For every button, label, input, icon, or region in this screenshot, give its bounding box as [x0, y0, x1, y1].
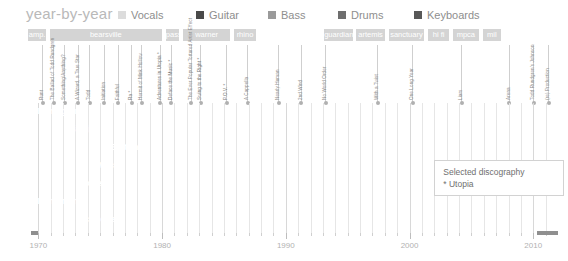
member-name-label: Siegler	[66, 121, 105, 138]
axis-tick	[410, 233, 411, 239]
axis-tick	[533, 233, 534, 239]
legend-label: Vocals	[131, 9, 163, 21]
axis-tick-label: 1980	[153, 241, 171, 250]
axis-tick	[311, 233, 312, 236]
axis-tick	[125, 233, 126, 236]
axis-tick	[434, 233, 435, 236]
album-title: Deface the Music *	[168, 60, 173, 100]
album-title: 2nd Wind	[298, 80, 303, 100]
album-title: Liars	[458, 90, 463, 100]
album-marker: Ra *	[131, 45, 132, 103]
album-marker: Adventures in Utopia *	[160, 45, 161, 103]
axis-tick	[150, 233, 151, 236]
table-row: Siegler	[26, 121, 558, 138]
axis-tick	[385, 233, 386, 236]
axis-tick-label: 1970	[29, 241, 47, 250]
album-title: Adventures in Utopia *	[157, 52, 162, 100]
album-marker: Arena	[509, 45, 510, 103]
legend-swatch-icon	[414, 11, 422, 19]
axis-tick	[360, 233, 361, 236]
record-label-chip: bearsville	[50, 29, 163, 41]
record-label-chip: amp.	[28, 29, 45, 41]
album-title: With a Twist	[374, 74, 379, 100]
axis-tick	[249, 233, 250, 236]
album-marker: Nearly Human	[278, 45, 279, 103]
axis-tick	[447, 233, 448, 236]
record-label-chip: rhino	[234, 29, 256, 41]
axis-tick	[496, 233, 497, 236]
axis-end-cap	[537, 231, 558, 235]
axis-tick	[323, 233, 324, 236]
axis-tick	[484, 233, 485, 236]
axis-tick	[38, 233, 39, 239]
record-label-chip: hi fi	[428, 29, 449, 41]
axis-tick	[509, 233, 510, 236]
axis-tick	[224, 233, 225, 236]
member-name-label: Schuckett	[74, 211, 126, 228]
album-title: A Wizard, a True Star	[75, 54, 80, 100]
axis-tick-label: 1990	[277, 241, 295, 250]
legend-label: Guitar	[209, 9, 239, 21]
album-title: Something/Anything?	[61, 54, 66, 100]
annotation-box: Selected discography * Utopia	[434, 160, 564, 196]
album-title: (re) Production	[545, 68, 550, 100]
table-row: Schuckett	[26, 211, 558, 228]
album-marker: 2nd Wind	[301, 45, 302, 103]
axis-tick	[521, 233, 522, 236]
axis-end-cap	[31, 231, 38, 235]
album-marker: Deface the Music *	[171, 45, 172, 103]
album-title: P.O.V. *	[223, 84, 228, 100]
record-label-chip: pass	[166, 29, 180, 41]
axis-tick	[335, 233, 336, 236]
legend-item-vocals: Vocals	[118, 9, 163, 21]
member-name-label: Rundgren	[33, 103, 85, 120]
album-marker: P.O.V. *	[226, 45, 227, 103]
album-title: The Ballad of Todd Rundgren	[50, 38, 55, 100]
legend-item-bass: Bass	[268, 9, 305, 21]
album-title: Todd Rundgren's Johnson	[530, 44, 535, 100]
album-marker: Initiation	[104, 45, 105, 103]
legend-swatch-icon	[196, 11, 204, 19]
album-marker: A Cappella	[247, 45, 248, 103]
axis-tick	[51, 233, 52, 236]
table-row: Sulton	[26, 139, 558, 156]
album-marker: Swing to the Right *	[200, 45, 201, 103]
legend-item-keyboards: Keyboards	[414, 9, 480, 21]
axis-tick	[113, 233, 114, 236]
album-title: No World Order	[322, 67, 327, 100]
legend-item-drums: Drums	[338, 9, 383, 21]
axis-tick-label: 2010	[524, 241, 542, 250]
album-marker: Faithful	[118, 45, 119, 103]
member-name-label: Sulton	[106, 139, 143, 156]
album-marker: A Wizard, a True Star	[78, 45, 79, 103]
album-marker: The Ever Popular Tortured Artist Effect	[191, 45, 192, 103]
record-label-chip: mil	[483, 29, 502, 41]
annotation-line-1: Selected discography	[443, 166, 556, 178]
axis-tick	[75, 233, 76, 236]
axis-tick	[63, 233, 64, 236]
legend-label: Keyboards	[427, 9, 480, 21]
axis-tick	[298, 233, 299, 236]
album-title: Nearly Human	[275, 69, 280, 100]
album-title: Swing to the Right *	[197, 58, 202, 100]
member-name-label: Wilcox	[92, 157, 130, 174]
album-title: Todd	[86, 90, 91, 100]
album-title: Ra *	[128, 91, 133, 100]
axis-tick	[174, 233, 175, 236]
record-label-chip: mpca	[453, 29, 479, 41]
legend-swatch-icon	[338, 11, 346, 19]
axis-tick	[459, 233, 460, 236]
album-title: One Long Year	[409, 68, 414, 100]
album-marker: No World Order	[325, 45, 326, 103]
album-marker: (re) Production	[548, 45, 549, 103]
album-marker: One Long Year	[412, 45, 413, 103]
axis-tick	[286, 233, 287, 239]
axis-tick	[100, 233, 101, 236]
chart-header: year-by-year VocalsGuitarBassDrumsKeyboa…	[0, 0, 568, 28]
axis-tick	[422, 233, 423, 236]
album-title: Initiation	[101, 82, 106, 100]
album-marker: Todd Rundgren's Johnson	[533, 45, 534, 103]
album-title: Arena	[506, 87, 511, 100]
album-marker: With a Twist	[377, 45, 378, 103]
annotation-line-2: * Utopia	[443, 178, 556, 190]
